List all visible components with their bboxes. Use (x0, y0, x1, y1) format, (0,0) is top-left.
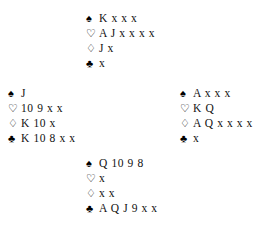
south-hearts: x (99, 171, 105, 186)
hand-north: ♠ K x x x ♡ A J x x x x ♢ J x ♣ x (86, 11, 155, 71)
east-clubs: x (193, 131, 199, 146)
hand-west: ♠ J ♡ 10 9 x x ♢ K 10 x ♣ K 10 8 x x (8, 86, 76, 146)
north-diamonds: J x (99, 41, 114, 56)
south-spades: Q 10 9 8 (99, 156, 144, 171)
north-diamond-row: ♢ J x (86, 41, 155, 56)
south-diamond-row: ♢ x x (86, 186, 158, 201)
hand-east: ♠ A x x x ♡ K Q ♢ A Q x x x x ♣ x (180, 86, 253, 146)
east-spades: A x x x (193, 86, 231, 101)
east-heart-row: ♡ K Q (180, 101, 253, 116)
west-club-row: ♣ K 10 8 x x (8, 131, 76, 146)
north-hearts: A J x x x x (99, 26, 155, 41)
south-club-row: ♣ A Q J 9 x x (86, 201, 158, 216)
north-spade-row: ♠ K x x x (86, 11, 155, 26)
heart-icon: ♡ (86, 26, 99, 41)
bridge-deal-diagram: ♠ K x x x ♡ A J x x x x ♢ J x ♣ x ♠ J ♡ … (0, 0, 273, 234)
spade-icon: ♠ (180, 86, 193, 101)
spade-icon: ♠ (8, 86, 21, 101)
club-icon: ♣ (86, 201, 99, 216)
club-icon: ♣ (180, 131, 193, 146)
west-spades: J (21, 86, 26, 101)
spade-icon: ♠ (86, 11, 99, 26)
west-heart-row: ♡ 10 9 x x (8, 101, 76, 116)
south-heart-row: ♡ x (86, 171, 158, 186)
spade-icon: ♠ (86, 156, 99, 171)
heart-icon: ♡ (8, 101, 21, 116)
diamond-icon: ♢ (8, 116, 21, 131)
west-spade-row: ♠ J (8, 86, 76, 101)
south-clubs: A Q J 9 x x (99, 201, 158, 216)
diamond-icon: ♢ (86, 41, 99, 56)
heart-icon: ♡ (86, 171, 99, 186)
south-spade-row: ♠ Q 10 9 8 (86, 156, 158, 171)
west-clubs: K 10 8 x x (21, 131, 76, 146)
west-diamond-row: ♢ K 10 x (8, 116, 76, 131)
club-icon: ♣ (8, 131, 21, 146)
north-heart-row: ♡ A J x x x x (86, 26, 155, 41)
hand-south: ♠ Q 10 9 8 ♡ x ♢ x x ♣ A Q J 9 x x (86, 156, 158, 216)
north-club-row: ♣ x (86, 56, 155, 71)
east-diamonds: A Q x x x x (193, 116, 253, 131)
north-spades: K x x x (99, 11, 137, 26)
north-clubs: x (99, 56, 105, 71)
heart-icon: ♡ (180, 101, 193, 116)
diamond-icon: ♢ (86, 186, 99, 201)
diamond-icon: ♢ (180, 116, 193, 131)
south-diamonds: x x (99, 186, 115, 201)
east-club-row: ♣ x (180, 131, 253, 146)
west-diamonds: K 10 x (21, 116, 56, 131)
east-diamond-row: ♢ A Q x x x x (180, 116, 253, 131)
club-icon: ♣ (86, 56, 99, 71)
east-spade-row: ♠ A x x x (180, 86, 253, 101)
east-hearts: K Q (193, 101, 214, 116)
west-hearts: 10 9 x x (21, 101, 63, 116)
